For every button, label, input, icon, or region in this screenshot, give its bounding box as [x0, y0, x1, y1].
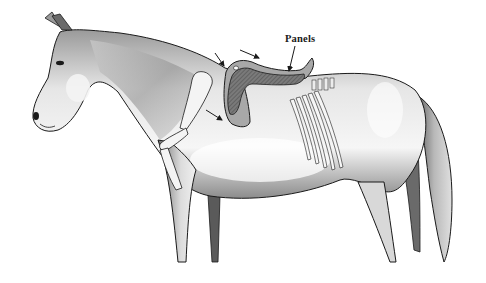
horse-saddle-diagram: Panels [0, 0, 486, 283]
arrow-icon [240, 50, 259, 58]
near-hind-leg [358, 182, 396, 262]
cheek [66, 74, 90, 102]
far-foreleg [208, 195, 220, 262]
panels-label: Panels [285, 33, 315, 44]
eye [56, 61, 64, 65]
saddle-pommel-detail [234, 66, 239, 70]
panels-pointer-arrow-icon [289, 46, 295, 71]
nostril [33, 112, 39, 120]
